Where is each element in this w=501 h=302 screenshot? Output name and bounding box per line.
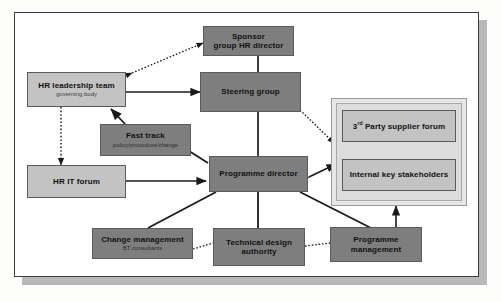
- node-programme-management-title-line2: management: [351, 245, 401, 254]
- node-programme-management[interactable]: Programme management: [330, 227, 422, 262]
- node-change-management-title: Change management: [101, 235, 184, 244]
- diagram-canvas: Sponsor group HR director HR leadership …: [0, 0, 501, 302]
- node-technical-design-authority-title-line2: authority: [241, 247, 276, 256]
- node-hr-leadership-team[interactable]: HR leadership team governing body: [27, 72, 126, 107]
- node-third-party-supplier-forum[interactable]: 3rd Party supplier forum: [342, 110, 456, 142]
- node-hr-leadership-team-subtitle: governing body: [56, 91, 97, 98]
- node-sponsor-title-line2: group HR director: [213, 41, 283, 50]
- node-change-management[interactable]: Change management BT consultants: [92, 228, 193, 259]
- node-sponsor[interactable]: Sponsor group HR director: [203, 26, 294, 56]
- node-internal-key-stakeholders[interactable]: Internal key stakeholders: [342, 159, 456, 191]
- node-programme-director-title: Programme director: [219, 169, 297, 178]
- node-third-party-supplier-forum-title: 3rd Party supplier forum: [353, 121, 445, 131]
- node-sponsor-title: Sponsor: [232, 32, 265, 41]
- node-steering-group[interactable]: Steering group: [200, 72, 301, 112]
- node-technical-design-authority[interactable]: Technical design authority: [213, 228, 305, 266]
- node-programme-director[interactable]: Programme director: [209, 156, 308, 192]
- node-programme-management-title: Programme: [353, 235, 398, 244]
- node-fast-track-subtitle: policy/procedure/change: [113, 142, 178, 149]
- node-hr-it-forum[interactable]: HR IT forum: [27, 165, 126, 198]
- node-steering-group-title: Steering group: [221, 87, 279, 96]
- node-internal-key-stakeholders-title: Internal key stakeholders: [350, 170, 449, 179]
- node-change-management-subtitle: BT consultants: [123, 245, 163, 252]
- node-technical-design-authority-title: Technical design: [226, 238, 292, 247]
- node-fast-track[interactable]: Fast track policy/procedure/change: [100, 124, 191, 156]
- node-hr-leadership-team-title: HR leadership team: [38, 81, 115, 90]
- node-hr-it-forum-title: HR IT forum: [53, 177, 100, 186]
- node-fast-track-title: Fast track: [126, 131, 165, 140]
